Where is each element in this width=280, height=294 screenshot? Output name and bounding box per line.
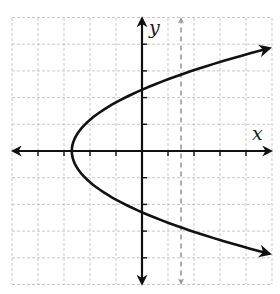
coordinate-plane: [0, 0, 280, 294]
y-axis-label: y: [149, 18, 160, 37]
x-axis-label: x: [252, 124, 263, 143]
